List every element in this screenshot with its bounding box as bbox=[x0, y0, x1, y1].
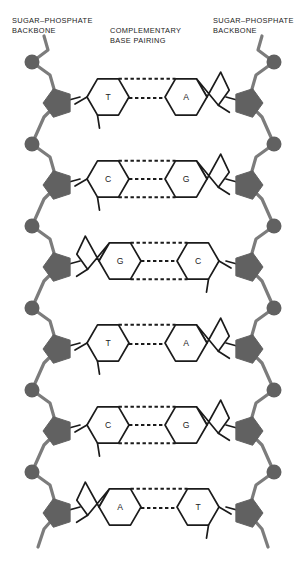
base-letter-g-right-2: G bbox=[183, 174, 190, 184]
base-letter-c-right-3: C bbox=[195, 256, 201, 266]
base-letter-a-left-6: A bbox=[117, 502, 123, 512]
phosphate-circle-left-2 bbox=[25, 137, 40, 152]
base-letter-t-left-4: T bbox=[105, 338, 111, 348]
label-sugar-phosphate-backbone-left: SUGAR–PHOSPHATE BACKBONE bbox=[12, 16, 93, 36]
phosphate-circle-left-6 bbox=[25, 465, 40, 480]
label-sugar-phosphate-backbone-right: SUGAR–PHOSPHATE BACKBONE bbox=[213, 16, 294, 36]
base-letter-g-left-3: G bbox=[117, 256, 124, 266]
phosphate-circle-left-3 bbox=[25, 219, 40, 234]
phosphate-circle-right-3 bbox=[267, 219, 282, 234]
phosphate-circle-right-4 bbox=[267, 301, 282, 316]
base-letter-a-right-1: A bbox=[183, 92, 189, 102]
base-letter-c-left-2: C bbox=[105, 174, 111, 184]
label-complementary-base-pairing: COMPLEMENTARY BASE PAIRING bbox=[110, 26, 181, 46]
phosphate-circle-right-2 bbox=[267, 137, 282, 152]
phosphate-circle-left-4 bbox=[25, 301, 40, 316]
phosphate-circle-right-6 bbox=[267, 465, 282, 480]
base-letter-t-right-6: T bbox=[195, 502, 201, 512]
base-letter-t-left-1: T bbox=[105, 92, 111, 102]
base-letter-c-left-5: C bbox=[105, 420, 111, 430]
phosphate-circle-left-1 bbox=[25, 55, 40, 70]
dna-base-pairing-diagram: TACGGCTACGAT bbox=[0, 0, 307, 565]
phosphate-circle-right-5 bbox=[267, 383, 282, 398]
phosphate-circle-right-1 bbox=[267, 55, 282, 70]
base-letter-g-right-5: G bbox=[183, 420, 190, 430]
phosphate-circle-left-5 bbox=[25, 383, 40, 398]
base-letter-a-right-4: A bbox=[183, 338, 189, 348]
